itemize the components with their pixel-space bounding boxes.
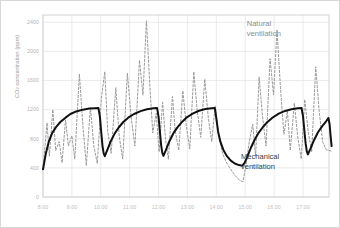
y-axis-tick-label: 2000: [17, 48, 39, 54]
annotation-natural-ventilation: Natural ventilation: [247, 19, 281, 38]
x-axis-tick-label: 15:00: [233, 204, 257, 210]
x-axis-tick-label: 13:00: [175, 204, 199, 210]
grid-lines: [43, 15, 329, 197]
annotation-mechanical-line2: ventilation: [241, 162, 279, 171]
y-axis-tick-label: 1200: [17, 106, 39, 112]
annotation-natural-line1: Natural: [247, 19, 281, 28]
chart-canvas: [1, 1, 340, 228]
y-axis-tick-label: 0: [17, 194, 39, 200]
annotation-mechanical-ventilation: Mechanical ventilation: [241, 152, 279, 171]
x-axis-tick-label: 11:00: [118, 204, 142, 210]
x-axis-tick-label: 12:00: [147, 204, 171, 210]
x-axis-tick-label: 14:00: [204, 204, 228, 210]
x-axis-tick-label: 9:00: [60, 204, 84, 210]
y-axis-title-subscript: 2: [15, 87, 20, 89]
plot-container: [1, 1, 340, 228]
annotation-natural-line2: ventilation: [247, 29, 281, 38]
annotation-mechanical-line1: Mechanical: [241, 152, 279, 161]
y-axis-tick-label: 400: [17, 165, 39, 171]
x-axis-tick-label: 17:00: [291, 204, 315, 210]
x-axis-tick-label: 8:00: [31, 204, 55, 210]
y-axis-tick-label: 1600: [17, 77, 39, 83]
y-axis-tick-label: 2400: [17, 19, 39, 25]
x-axis-tick-label: 10:00: [89, 204, 113, 210]
plot-frame: [43, 15, 329, 197]
x-axis-tick-label: 16:00: [262, 204, 286, 210]
y-axis-tick-label: 800: [17, 136, 39, 142]
chart-figure: CO2 concentration (ppm) 0400800120016002…: [0, 0, 340, 228]
y-axis-title-prefix: CO: [14, 90, 20, 98]
